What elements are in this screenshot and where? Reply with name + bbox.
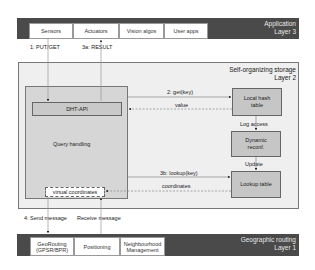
arrow-overlay: [0, 0, 315, 270]
